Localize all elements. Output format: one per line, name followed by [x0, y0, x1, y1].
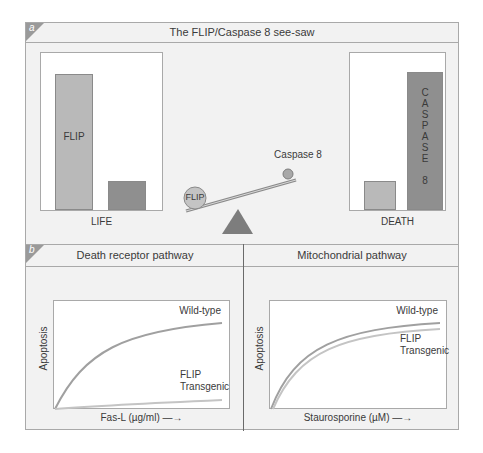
seesaw-flip-label: FLIP — [178, 192, 212, 202]
right-xlabel: Staurosporine (µM) —→ — [269, 412, 447, 423]
fulcrum-triangle — [222, 209, 253, 234]
right-ylabel: Apoptosis — [254, 324, 265, 374]
left-chart-title: Death receptor pathway — [26, 245, 244, 266]
death-label: DEATH — [349, 216, 446, 227]
right-chart-plot: Wild-type FLIP Transgenic — [269, 300, 447, 409]
caspase-ball — [283, 169, 293, 179]
left-wildtype-label: Wild-type — [179, 305, 221, 316]
right-transgenic-label: Transgenic — [400, 345, 449, 356]
left-transgenic-label: Transgenic — [180, 381, 229, 392]
death-chart: C A S P A S E 8 — [349, 52, 446, 211]
panel-b-header: b Death receptor pathway Mitochondrial p… — [26, 244, 458, 267]
left-ylabel: Apoptosis — [38, 324, 49, 374]
left-chart-plot: Wild-type FLIP Transgenic — [53, 300, 230, 409]
panel-b-divider — [243, 244, 244, 431]
death-caspase-label: C A S P A S E 8 — [408, 87, 442, 186]
left-flip-line — [55, 400, 222, 409]
right-chart-title: Mitochondrial pathway — [244, 245, 460, 266]
left-xlabel: Fas-L (µg/ml) —→ — [53, 412, 230, 423]
right-wildtype-label: Wild-type — [396, 305, 438, 316]
death-caspase-bar: C A S P A S E 8 — [407, 72, 443, 210]
figure-frame: a The FLIP/Caspase 8 see-saw FLIP LIFE F… — [25, 22, 459, 430]
right-flip-label: FLIP — [400, 333, 421, 344]
seesaw-caspase-label: Caspase 8 — [263, 149, 333, 160]
left-flip-label: FLIP — [180, 369, 201, 380]
death-flip-bar — [364, 181, 396, 210]
left-wildtype-line — [55, 323, 222, 409]
left-chart-lines — [54, 301, 231, 410]
